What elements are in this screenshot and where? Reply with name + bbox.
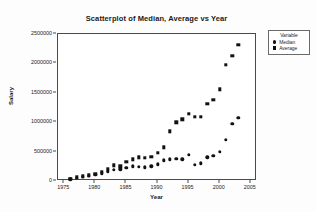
legend: Variable MedianAverage: [268, 30, 310, 55]
x-tick-mark: [63, 180, 64, 183]
x-tick-mark: [249, 180, 250, 183]
y-tick-mark: [53, 91, 56, 92]
x-tick-label: 2000: [213, 184, 225, 190]
legend-label: Average: [279, 46, 297, 51]
square-marker-icon: [273, 46, 276, 49]
x-tick-label: 1985: [119, 184, 131, 190]
x-tick-mark: [94, 180, 95, 183]
x-axis-title: Year: [57, 193, 256, 200]
y-tick-mark: [53, 121, 56, 122]
legend-item-median[interactable]: Median: [272, 40, 306, 45]
legend-title: Variable: [272, 33, 306, 38]
y-tick-mark: [53, 180, 56, 181]
legend-label: Median: [279, 40, 295, 45]
x-tick-label: 1975: [57, 184, 69, 190]
y-tick-mark: [53, 62, 56, 63]
x-axis-tick-marks: [57, 0, 256, 190]
y-tick-mark: [53, 150, 56, 151]
x-tick-label: 2005: [244, 184, 256, 190]
x-tick-label: 1995: [182, 184, 194, 190]
y-tick-mark: [53, 33, 56, 34]
x-tick-label: 1990: [151, 184, 163, 190]
legend-entries: MedianAverage: [272, 40, 306, 51]
x-tick-mark: [156, 180, 157, 183]
x-tick-label: 1980: [88, 184, 100, 190]
x-tick-mark: [187, 180, 188, 183]
y-axis-tick-marks: [0, 33, 57, 180]
x-tick-mark: [218, 180, 219, 183]
scatterplot-figure: Scatterplot of Median, Average vs Year S…: [0, 0, 317, 212]
legend-item-average[interactable]: Average: [272, 46, 306, 51]
circle-marker-icon: [273, 40, 276, 43]
x-tick-mark: [125, 180, 126, 183]
